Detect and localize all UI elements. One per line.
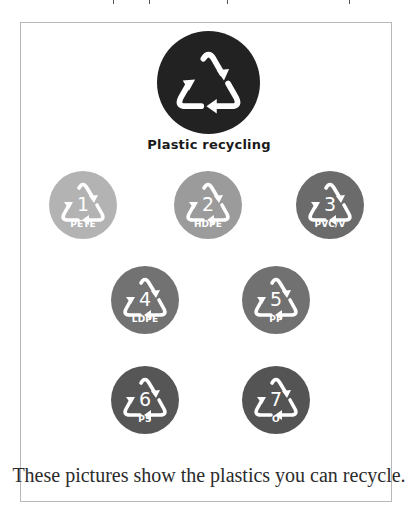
- resin-code-5-badge: 5 PP: [242, 266, 310, 334]
- recycle-triangle-icon: [157, 31, 260, 134]
- resin-code-number: 4: [111, 290, 179, 309]
- resin-code-abbr: PS: [111, 415, 179, 424]
- resin-code-number: 1: [49, 195, 117, 214]
- resin-code-abbr: O: [242, 415, 310, 424]
- cut-off-text-above: [0, 0, 418, 6]
- resin-code-abbr: LDPE: [111, 315, 179, 324]
- resin-code-abbr: PETE: [49, 220, 117, 229]
- resin-code-abbr: HDPE: [174, 220, 242, 229]
- resin-code-number: 5: [242, 290, 310, 309]
- figure-caption: These pictures show the plastics you can…: [0, 464, 418, 487]
- plastic-recycling-badge: [157, 31, 260, 134]
- resin-code-4-badge: 4 LDPE: [111, 266, 179, 334]
- resin-code-1-badge: 1 PETE: [49, 171, 117, 239]
- resin-code-3-badge: 3 PVC/V: [296, 171, 364, 239]
- resin-code-number: 6: [111, 390, 179, 409]
- resin-code-2-badge: 2 HDPE: [174, 171, 242, 239]
- resin-code-6-badge: 6 PS: [111, 366, 179, 434]
- resin-code-number: 7: [242, 390, 310, 409]
- resin-code-7-badge: 7 O: [242, 366, 310, 434]
- resin-code-number: 3: [296, 195, 364, 214]
- resin-code-abbr: PVC/V: [296, 220, 364, 229]
- resin-code-number: 2: [174, 195, 242, 214]
- resin-code-abbr: PP: [242, 315, 310, 324]
- plastic-recycling-label: Plastic recycling: [0, 137, 418, 152]
